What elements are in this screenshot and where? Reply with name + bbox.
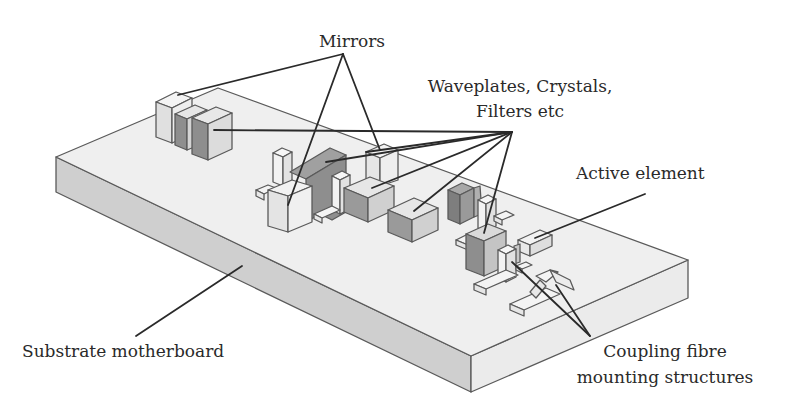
small-post-left [273, 148, 292, 186]
optical-bench-diagram: Mirrors Waveplates, Crystals, Filters et… [0, 0, 790, 410]
label-waveplates-line2: Filters etc [476, 100, 564, 122]
label-active-element: Active element [576, 162, 705, 184]
label-waveplates-line1: Waveplates, Crystals, [428, 75, 613, 97]
label-substrate-motherboard: Substrate motherboard [22, 340, 224, 362]
label-coupling-line2: mounting structures [577, 366, 754, 388]
leader-substrate [136, 266, 242, 336]
label-mirrors: Mirrors [319, 30, 385, 52]
centre-left-mirror [268, 180, 312, 232]
label-coupling-line1: Coupling fibre [603, 340, 727, 362]
back-waveplate-2 [192, 107, 232, 160]
leader-mirrors-1 [178, 54, 343, 95]
